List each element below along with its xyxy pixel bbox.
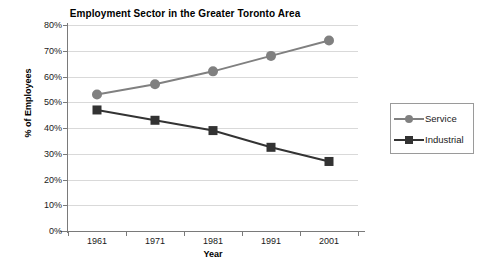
data-point-service-1991[interactable] — [266, 51, 276, 61]
x-tick-label: 1961 — [74, 236, 120, 246]
legend-label: Service — [425, 113, 457, 124]
x-tick-label: 1971 — [132, 236, 178, 246]
y-tick-label: 20% — [24, 175, 62, 185]
y-tick-label: 60% — [24, 72, 62, 82]
x-tick-mark — [358, 231, 359, 236]
y-tick-label: 40% — [24, 123, 62, 133]
legend-label: Industrial — [425, 134, 464, 145]
data-point-industrial-2001[interactable] — [325, 157, 334, 166]
y-tick-label: 30% — [24, 149, 62, 159]
legend-item-service[interactable]: Service — [391, 108, 473, 129]
y-tick-label: 10% — [24, 200, 62, 210]
y-axis-ticks: 0%10%20%30%40%50%60%70%80% — [22, 0, 62, 269]
data-point-service-1971[interactable] — [150, 79, 160, 89]
data-point-service-1981[interactable] — [208, 66, 218, 76]
series-layer — [68, 25, 358, 231]
legend-item-industrial[interactable]: Industrial — [391, 129, 473, 150]
x-tick-label: 1991 — [248, 236, 294, 246]
y-tick-label: 50% — [24, 97, 62, 107]
data-point-industrial-1981[interactable] — [209, 126, 218, 135]
y-tick-label: 0% — [24, 226, 62, 236]
x-tick-label: 1981 — [190, 236, 236, 246]
data-point-service-2001[interactable] — [324, 35, 334, 45]
plot-area — [68, 25, 358, 231]
x-tick-label: 2001 — [306, 236, 352, 246]
data-point-industrial-1991[interactable] — [267, 143, 276, 152]
y-tick-label: 80% — [24, 20, 62, 30]
gridline — [68, 231, 358, 232]
data-point-industrial-1971[interactable] — [151, 116, 160, 125]
chart-legend: ServiceIndustrial — [390, 103, 474, 154]
legend-marker-circle-icon — [394, 113, 424, 125]
y-tick-label: 70% — [24, 46, 62, 56]
chart-container: Employment Sector in the Greater Toronto… — [0, 0, 482, 269]
data-point-service-1961[interactable] — [92, 90, 102, 100]
data-point-industrial-1961[interactable] — [93, 105, 102, 114]
x-axis-title: Year — [68, 249, 358, 259]
legend-marker-square-icon — [394, 134, 424, 146]
series-line-industrial — [97, 110, 329, 162]
